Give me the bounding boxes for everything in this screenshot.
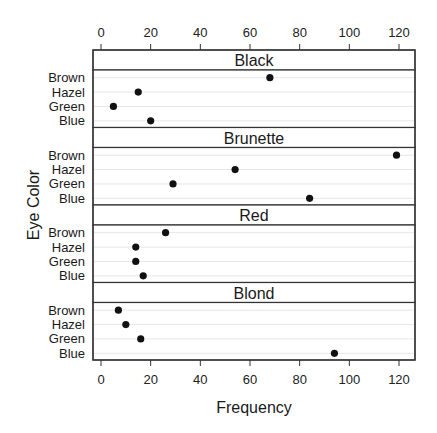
panel-blond: BlondBrownHazelGreenBlue [48, 283, 415, 361]
strip-label: Brunette [224, 130, 285, 147]
category-label: Blue [59, 346, 85, 361]
category-label: Brown [48, 148, 85, 163]
category-label: Hazel [52, 240, 85, 255]
data-point [147, 117, 154, 124]
top-tick-label: 40 [193, 25, 207, 40]
data-point [232, 166, 239, 173]
bottom-x-axis: 020406080100120 [97, 360, 409, 387]
data-point [135, 88, 142, 95]
top-x-axis: 020406080100120 [97, 25, 409, 50]
data-point [306, 195, 313, 202]
strip-label: Red [239, 207, 268, 224]
data-point [169, 180, 176, 187]
bottom-tick-label: 60 [243, 372, 257, 387]
bottom-tick-label: 20 [143, 372, 157, 387]
top-tick-label: 60 [243, 25, 257, 40]
top-tick-label: 80 [292, 25, 306, 40]
category-label: Green [49, 176, 85, 191]
strip-label: Blond [234, 285, 275, 302]
bottom-tick-label: 0 [97, 372, 104, 387]
panel-red: RedBrownHazelGreenBlue [48, 205, 415, 283]
dotplot-chart: 020406080100120 BlackBrownHazelGreenBlue… [0, 0, 437, 433]
category-label: Hazel [52, 317, 85, 332]
category-label: Green [49, 99, 85, 114]
strip-label: Black [234, 52, 274, 69]
x-axis-title: Frequency [216, 399, 292, 416]
plot-area [93, 70, 415, 128]
data-point [393, 152, 400, 159]
data-point [266, 74, 273, 81]
category-label: Hazel [52, 85, 85, 100]
category-label: Brown [48, 303, 85, 318]
data-point [122, 321, 129, 328]
category-label: Green [49, 254, 85, 269]
category-label: Green [49, 331, 85, 346]
top-tick-label: 20 [143, 25, 157, 40]
data-point [331, 350, 338, 357]
bottom-tick-label: 120 [388, 372, 410, 387]
panels: BlackBrownHazelGreenBlueBrunetteBrownHaz… [48, 50, 415, 361]
top-tick-label: 100 [338, 25, 360, 40]
data-point [137, 335, 144, 342]
top-tick-label: 0 [97, 25, 104, 40]
bottom-tick-label: 40 [193, 372, 207, 387]
plot-area [93, 148, 415, 206]
category-label: Blue [59, 113, 85, 128]
bottom-tick-label: 100 [338, 372, 360, 387]
panel-brunette: BrunetteBrownHazelGreenBlue [48, 128, 415, 206]
bottom-tick-label: 80 [292, 372, 306, 387]
category-label: Blue [59, 191, 85, 206]
data-point [162, 229, 169, 236]
data-point [110, 103, 117, 110]
category-label: Blue [59, 268, 85, 283]
plot-area [93, 303, 415, 361]
category-label: Brown [48, 225, 85, 240]
panel-black: BlackBrownHazelGreenBlue [48, 50, 415, 128]
data-point [140, 272, 147, 279]
category-label: Hazel [52, 162, 85, 177]
data-point [115, 307, 122, 314]
data-point [132, 243, 139, 250]
data-point [132, 258, 139, 265]
category-label: Brown [48, 70, 85, 85]
top-tick-label: 120 [388, 25, 410, 40]
y-axis-title: Eye Color [25, 169, 42, 240]
